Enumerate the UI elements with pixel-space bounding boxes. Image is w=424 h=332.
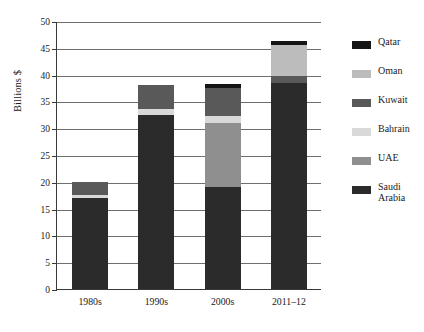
bar-stack [271, 21, 307, 289]
bar-stack [205, 21, 241, 289]
bar-segment [72, 182, 108, 195]
bar-segment [271, 45, 307, 76]
y-axis-tick [52, 290, 57, 291]
bar-segment [205, 123, 241, 187]
legend-item: Bahrain [352, 125, 424, 154]
y-axis-tick-label: 15 [24, 205, 50, 215]
figure-caption [0, 323, 424, 332]
legend-label: Kuwait [378, 94, 407, 105]
legend-label: Saudi Arabia [378, 181, 405, 203]
bar-segment [271, 76, 307, 82]
y-axis-tick-label: 20 [24, 178, 50, 188]
bar-segment [138, 109, 174, 114]
bar-segment [205, 187, 241, 289]
legend-item: Kuwait [352, 96, 424, 125]
bar-segment [72, 195, 108, 198]
y-axis-tick-label: 40 [24, 71, 50, 81]
y-axis-tick-label: 35 [24, 97, 50, 107]
bar-segment [205, 88, 241, 116]
bar-segment [271, 41, 307, 45]
legend-swatch [352, 128, 371, 136]
chart-figure: Billions $ 05101520253035404550 1980s199… [0, 0, 424, 332]
y-axis-tick-label: 0 [24, 285, 50, 295]
legend-swatch [352, 99, 371, 107]
legend-item: UAE [352, 154, 424, 183]
legend-swatch [352, 41, 371, 49]
legend-label: Qatar [378, 36, 400, 47]
bar-segment [271, 83, 307, 289]
legend-swatch [352, 157, 371, 165]
bar-group [57, 22, 321, 289]
legend-swatch [352, 186, 371, 194]
bar-stack [72, 21, 108, 289]
y-axis-title: Billions $ [12, 70, 23, 112]
chart-legend: QatarOmanKuwaitBahrainUAESaudi Arabia [352, 38, 424, 212]
y-axis-tick-label: 10 [24, 231, 50, 241]
y-axis-tick-label: 25 [24, 151, 50, 161]
legend-label: UAE [378, 152, 399, 163]
y-axis-tick-label: 50 [24, 17, 50, 27]
legend-item: Oman [352, 67, 424, 96]
x-axis-tick-label: 2011–12 [250, 296, 328, 307]
bar-segment [138, 85, 174, 109]
legend-label: Oman [378, 65, 402, 76]
legend-item: Saudi Arabia [352, 183, 424, 212]
bar-stack [138, 21, 174, 289]
bar-segment [205, 116, 241, 122]
legend-item: Qatar [352, 38, 424, 67]
y-axis-tick-label: 5 [24, 258, 50, 268]
bar-segment [138, 115, 174, 289]
y-axis-tick-label: 45 [24, 44, 50, 54]
legend-swatch [352, 70, 371, 78]
bar-segment [72, 198, 108, 289]
plot-area: 05101520253035404550 1980s1990s2000s2011… [56, 22, 321, 290]
legend-label: Bahrain [378, 123, 410, 134]
bar-segment [205, 84, 241, 88]
y-axis-tick-label: 30 [24, 124, 50, 134]
